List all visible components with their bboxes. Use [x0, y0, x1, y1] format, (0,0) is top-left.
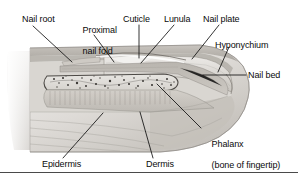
label-lunula: Lunula — [164, 14, 190, 25]
label-nail-bed: Nail bed — [248, 70, 280, 81]
label-proximal-nail-fold-line1: Proximal — [83, 25, 117, 35]
label-hyponychium: Hyponychium — [215, 40, 268, 51]
label-proximal-nail-fold: Proximal nail fold — [73, 14, 117, 67]
bottom-divider-rule — [0, 172, 298, 173]
fingertip-anatomy-figure: Nail root Proximal nail fold Cuticle Lun… — [0, 0, 298, 179]
label-phalanx-line2: (bone of fingertip) — [212, 160, 281, 170]
label-dermis: Dermis — [146, 159, 174, 170]
label-nail-plate: Nail plate — [203, 14, 240, 25]
label-nail-root: Nail root — [22, 14, 55, 25]
label-cuticle: Cuticle — [123, 14, 150, 25]
label-phalanx-line1: Phalanx — [212, 139, 244, 149]
phalanx-bone-structure — [44, 74, 178, 91]
label-proximal-nail-fold-line2: nail fold — [83, 46, 113, 56]
label-epidermis: Epidermis — [42, 159, 81, 170]
